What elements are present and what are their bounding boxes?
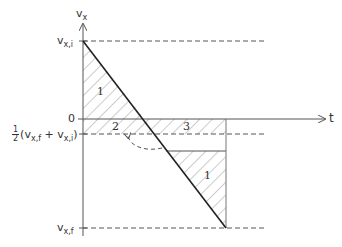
- region-2-3: [83, 119, 226, 134]
- average-velocity-label: 12(vx,f + vx,i): [12, 126, 78, 143]
- region-label-3: 3: [183, 121, 190, 132]
- y-axis-label: vx: [76, 8, 87, 22]
- origin-label: 0: [68, 113, 75, 124]
- vxf-label: vx,f: [57, 222, 74, 236]
- one-half-fraction: 12: [12, 126, 19, 143]
- region-label-1-upper: 1: [97, 86, 104, 97]
- region-label-2: 2: [112, 121, 119, 132]
- velocity-time-diagram: [0, 0, 342, 247]
- t-axis-label: t: [329, 112, 334, 124]
- vxi-label: vx,i: [57, 35, 73, 49]
- region-label-1-lower: 1: [204, 170, 211, 181]
